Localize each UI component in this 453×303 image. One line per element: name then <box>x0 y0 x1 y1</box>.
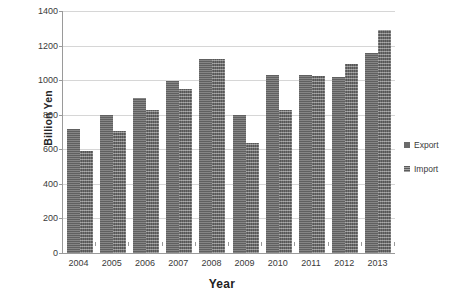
x-axis-title: Year <box>48 277 396 291</box>
bar-import <box>345 64 358 253</box>
y-axis-tick-label: 1200 <box>38 41 58 51</box>
chart-legend: ExportImport <box>404 140 452 188</box>
bar-import <box>312 76 325 253</box>
bar-group <box>166 11 192 253</box>
x-axis-tick-mark <box>261 242 262 246</box>
bar-group <box>133 11 159 253</box>
x-axis-tick-mark <box>95 242 96 246</box>
y-axis-tick-mark <box>59 115 63 116</box>
plot-area: 0200400600800100012001400 <box>62 11 395 254</box>
bar-export <box>100 115 113 253</box>
x-axis-tick-mark <box>361 242 362 246</box>
x-axis-tick-mark <box>162 242 163 246</box>
x-axis-tick-mark <box>128 242 129 246</box>
legend-item-export[interactable]: Export <box>404 140 452 150</box>
legend-swatch-icon <box>404 166 410 172</box>
bar-import <box>378 30 391 253</box>
bar-export <box>67 129 80 253</box>
bar-group <box>332 11 358 253</box>
y-axis-tick-mark <box>59 46 63 47</box>
bar-export <box>365 53 378 254</box>
y-axis-tick-label: 1400 <box>38 6 58 16</box>
y-axis-tick-mark <box>59 184 63 185</box>
x-axis-tick-mark <box>394 242 395 246</box>
y-axis-tick-mark <box>59 80 63 81</box>
y-axis-tick-label: 400 <box>43 179 58 189</box>
y-axis-tick-label: 800 <box>43 110 58 120</box>
y-axis-tick-mark <box>59 149 63 150</box>
legend-item-import[interactable]: Import <box>404 164 452 174</box>
bar-import <box>179 89 192 253</box>
bar-export <box>166 81 179 254</box>
bar-export <box>233 115 246 253</box>
y-axis-tick-mark <box>59 11 63 12</box>
y-axis-tick-mark <box>59 253 63 254</box>
bar-group <box>67 11 93 253</box>
y-axis-tick-label: 1000 <box>38 75 58 85</box>
y-axis-tick-mark <box>59 218 63 219</box>
bar-group <box>199 11 225 253</box>
bar-chart: Billion Yen 0200400600800100012001400 20… <box>0 0 453 303</box>
x-axis-tick-mark <box>62 242 63 246</box>
bar-import <box>212 59 225 253</box>
bar-import <box>80 151 93 253</box>
bar-export <box>332 77 345 253</box>
bar-import <box>113 131 126 253</box>
x-axis-tick-label: 2013 <box>357 258 397 268</box>
x-axis-tick-mark <box>195 242 196 246</box>
x-axis-tick-mark <box>294 242 295 246</box>
bar-group <box>365 11 391 253</box>
bar-import <box>279 110 292 253</box>
y-axis-tick-label: 0 <box>53 248 58 258</box>
bar-export <box>266 75 279 253</box>
bar-group <box>266 11 292 253</box>
legend-swatch-icon <box>404 142 410 148</box>
bar-group <box>100 11 126 253</box>
bar-export <box>133 98 146 253</box>
bar-import <box>246 143 259 253</box>
bar-export <box>199 59 212 253</box>
bar-group <box>233 11 259 253</box>
legend-label: Export <box>414 140 439 150</box>
gridline <box>63 253 395 254</box>
legend-label: Import <box>414 164 438 174</box>
x-axis-tick-mark <box>328 242 329 246</box>
y-axis-tick-label: 200 <box>43 213 58 223</box>
x-axis-tick-mark <box>228 242 229 246</box>
bar-group <box>299 11 325 253</box>
y-axis-tick-label: 600 <box>43 144 58 154</box>
bar-export <box>299 75 312 253</box>
bar-import <box>146 110 159 253</box>
